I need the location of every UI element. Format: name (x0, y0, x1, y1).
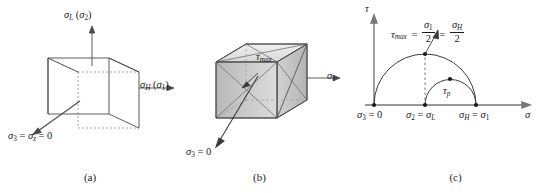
panel-a-caption: (a) (0, 171, 180, 183)
panel-b-shaded-cube: τmax σ1 σ3 = 0 (b) (180, 0, 355, 193)
tau-p-label: τp (443, 86, 450, 98)
panel-c-caption: (c) (363, 171, 540, 183)
cube-outline (48, 58, 139, 128)
panel-a-drawing (0, 0, 180, 193)
sigma-1-point (474, 103, 478, 107)
small-mohr-semicircle (425, 80, 476, 106)
panel-b-caption: (b) (172, 171, 347, 183)
sigma-3-label: σ3 = 0 (186, 147, 211, 159)
panel-c-mohr-circle: τ σ τmax = σ1 2 = σH 2 τp σ3 = 0 σ2 = σL (355, 0, 540, 193)
sigma-2-point (423, 103, 427, 107)
sigma-3-tick-label: σ3 = 0 (357, 110, 382, 122)
cube-top-right-diagonal (109, 58, 139, 72)
sigma-axis (365, 102, 530, 108)
stress-state-figure: σL (σ2) σH (σ1) σ3 = σz = 0 (a) (0, 0, 540, 193)
panel-b-drawing (180, 0, 355, 193)
tau-p-point (448, 77, 452, 81)
sigma-axis-label: σ (525, 110, 530, 121)
tau-max-point (423, 52, 427, 56)
tau-max-label: τmax (256, 52, 272, 64)
sigma-L-label: σL (σ2) (64, 10, 92, 22)
sigma-1-label: σ1 (327, 71, 336, 83)
tau-axis-label: τ (365, 4, 369, 15)
panel-a-wireframe-cube: σL (σ2) σH (σ1) σ3 = σz = 0 (a) (0, 0, 180, 193)
sigma-3-point (372, 103, 376, 107)
sigma-3-label: σ3 = σz = 0 (8, 131, 52, 143)
sigma-L-arrow (89, 26, 94, 66)
cube-top-left-diagonal (48, 58, 78, 72)
sigma-H-label: σH (σ1) (140, 80, 169, 92)
tau-max-equation: τmax = σ1 2 = σH 2 (391, 19, 464, 44)
sigma-H-tick-label: σH = σ1 (459, 110, 489, 122)
sigma-2-tick-label: σ2 = σL (406, 110, 435, 122)
